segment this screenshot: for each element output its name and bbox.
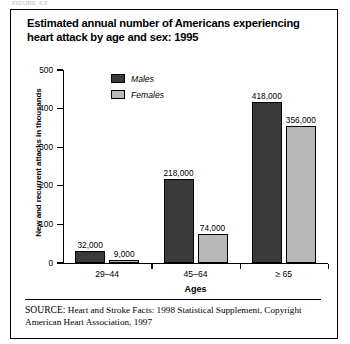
source-prefix: SOURCE: <box>25 304 66 315</box>
plot-area: New and recurrent attacks in thousands 0… <box>11 10 337 338</box>
bar-value-label: 74,000 <box>188 223 238 233</box>
x-axis-line <box>63 263 328 264</box>
y-tick-label: 300 <box>23 142 53 152</box>
bar-value-label: 356,000 <box>276 115 326 125</box>
x-tick <box>240 264 241 269</box>
source-divider <box>25 299 321 300</box>
category-label: 45–64 <box>161 269 231 279</box>
y-tick-label: 500 <box>23 65 53 75</box>
bar-value-label: 9,000 <box>99 249 149 259</box>
figure-box: Estimated annual number of Americans exp… <box>10 9 338 339</box>
bars-layer: 32,0009,000218,00074,000418,000356,000 <box>63 70 328 263</box>
bar-females-0 <box>109 260 139 263</box>
y-tick-label: 400 <box>23 103 53 113</box>
bar-males-2 <box>252 102 282 263</box>
category-label: 29–44 <box>72 269 142 279</box>
y-tick-label: 0 <box>23 258 53 268</box>
source-line-1: Heart and Stroke Facts: 1998 Statistical… <box>68 305 262 315</box>
bar-value-label: 218,000 <box>154 168 204 178</box>
y-tick-label: 100 <box>23 219 53 229</box>
x-tick <box>151 264 152 269</box>
bar-males-1 <box>164 179 194 263</box>
source-note: SOURCE: Heart and Stroke Facts: 1998 Sta… <box>25 304 325 328</box>
figure-caption-partial: FIGURE 4.2 <box>12 0 48 7</box>
category-label: ≥ 65 <box>249 269 319 279</box>
figure-page: FIGURE 4.2 Estimated annual number of Am… <box>0 0 350 344</box>
x-tick-end <box>328 264 329 269</box>
bar-females-2 <box>286 126 316 263</box>
y-tick-label: 200 <box>23 180 53 190</box>
x-axis-label: Ages <box>63 284 328 294</box>
bar-females-1 <box>198 234 228 263</box>
bar-value-label: 418,000 <box>242 91 292 101</box>
